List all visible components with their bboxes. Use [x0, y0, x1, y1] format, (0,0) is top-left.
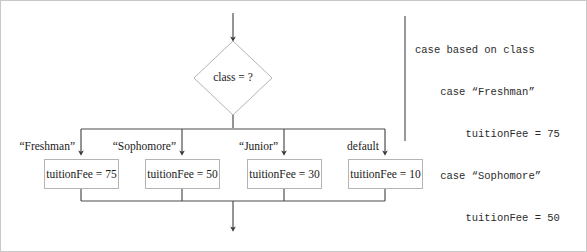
code-line-4: case “Sophomore” [415, 169, 560, 183]
action-box-sophomore: tuitionFee = 50 [145, 159, 220, 189]
code-line-5: tuitionFee = 50 [415, 211, 560, 225]
branch-label-junior: “Junior” [204, 140, 278, 152]
code-line-1: case based on class [415, 43, 560, 57]
branch-label-freshman: “Freshman” [1, 140, 75, 152]
decision-label: class = ? [194, 71, 272, 83]
branch-label-default: default [305, 140, 379, 152]
action-box-freshman: tuitionFee = 75 [44, 159, 119, 189]
code-line-3: tuitionFee = 75 [415, 127, 560, 141]
action-box-junior: tuitionFee = 30 [247, 159, 322, 189]
action-box-default: tuitionFee = 10 [348, 159, 423, 189]
branch-label-sophomore: “Sophomore” [102, 140, 176, 152]
pseudocode-block: case based on class case “Freshman” tuit… [415, 15, 560, 252]
flowchart-figure: class = ? “Freshman” “Sophomore” “Junior… [0, 0, 587, 252]
code-line-2: case “Freshman” [415, 85, 560, 99]
